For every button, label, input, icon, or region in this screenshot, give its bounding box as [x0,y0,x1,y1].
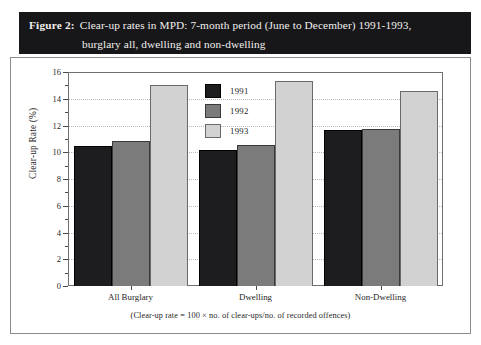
y-axis-tick-major [63,206,68,207]
y-axis-tick-label: 12 [52,121,61,131]
bar-1992-dwelling [237,145,275,286]
y-axis-tick-major [63,233,68,234]
legend-item-1992[interactable]: 1992 [205,102,275,119]
bar-1993-dwelling [275,81,313,286]
y-axis-tick-label: 0 [57,281,61,291]
bar-1993-non-dwelling [400,91,438,286]
y-axis-tick-minor [65,219,68,220]
figure-title-text-2: burglary all, dwelling and non-dwelling [29,35,463,54]
y-axis-tick-major [63,259,68,260]
y-axis-tick-minor [65,139,68,140]
figure-container: Figure 2:Clear-up rates in MPD: 7-month … [0,0,481,345]
legend-swatch-1991 [205,84,221,98]
y-axis-tick-label: 4 [57,228,61,238]
y-axis-tick-minor [65,85,68,86]
figure-number-label: Figure 2: [29,19,75,31]
y-axis-tick-minor [65,166,68,167]
bar-1991-dwelling [199,150,237,286]
figure-title-text-1: Clear-up rates in MPD: 7-month period (J… [75,19,412,31]
y-axis-tick-label: 8 [57,174,61,184]
legend-swatch-1992 [205,104,221,118]
y-axis-tick-label: 10 [52,147,61,157]
x-axis-tick [381,286,382,290]
y-axis-tick-major [63,99,68,100]
legend-label-1993: 1993 [230,126,249,136]
legend-swatch-1993 [205,124,221,138]
figure-title-bar: Figure 2:Clear-up rates in MPD: 7-month … [19,12,471,54]
y-axis-tick-major [63,286,68,287]
bar-1993-all-burglary [150,85,188,286]
bar-1992-all-burglary [112,141,150,286]
legend-label-1991: 1991 [230,86,249,96]
bar-1992-non-dwelling [362,129,400,286]
figure-title-line-1: Figure 2:Clear-up rates in MPD: 7-month … [29,16,463,35]
figure-footnote: (Clear-up rate = 100 × no. of clear-ups/… [0,311,481,320]
x-axis-tick [256,286,257,290]
y-axis-tick-minor [65,192,68,193]
legend-item-1991[interactable]: 1991 [205,82,275,99]
y-axis-tick-major [63,179,68,180]
x-axis-category-label: Dwelling [239,292,272,302]
x-axis-category-label: Non-Dwelling [355,292,406,302]
y-axis-tick-major [63,152,68,153]
y-axis-tick-label: 6 [57,201,61,211]
bar-1991-all-burglary [74,146,112,286]
y-axis-tick-minor [65,273,68,274]
y-axis-tick-minor [65,112,68,113]
y-axis-tick-label: 14 [52,94,61,104]
legend-label-1992: 1992 [230,106,249,116]
y-axis-tick-major [63,72,68,73]
x-axis-category-label: All Burglary [108,292,153,302]
y-axis-tick-major [63,126,68,127]
y-axis-tick-minor [65,246,68,247]
bar-1991-non-dwelling [324,130,362,286]
y-axis-title: Clear-up Rate (%) [28,108,38,179]
y-axis-tick-label: 2 [57,254,61,264]
y-axis-tick-label: 16 [52,67,61,77]
legend-item-1993[interactable]: 1993 [205,122,275,139]
chart-legend: 199119921993 [205,82,275,142]
x-axis-tick [131,286,132,290]
